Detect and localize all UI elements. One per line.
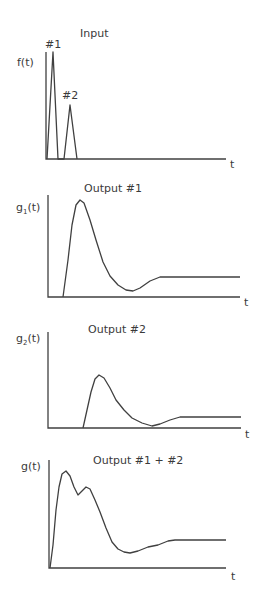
output2-curve bbox=[83, 375, 241, 428]
panel-output-1: Output #1 g1(t) t bbox=[16, 182, 249, 309]
y-axis-label: g(t) bbox=[21, 460, 41, 473]
panel-title: Output #1 bbox=[84, 182, 142, 195]
panel-title: Output #2 bbox=[88, 323, 146, 336]
axes bbox=[49, 460, 226, 568]
panel-title: Input bbox=[80, 27, 109, 40]
x-axis-label: t bbox=[230, 158, 235, 171]
axes bbox=[48, 332, 241, 428]
output1-curve bbox=[63, 200, 240, 297]
y-axis-label: f(t) bbox=[17, 56, 34, 69]
axes bbox=[48, 195, 240, 297]
figure-canvas: Input f(t) #1 #2 t Output #1 g1(t) t Out… bbox=[0, 0, 261, 602]
y-axis-label: g2(t) bbox=[16, 332, 40, 347]
y-axis-label: g1(t) bbox=[16, 201, 40, 216]
panel-title: Output #1 + #2 bbox=[93, 454, 183, 467]
input-curve bbox=[47, 52, 77, 159]
x-axis-label: t bbox=[231, 570, 236, 583]
panel-input: Input f(t) #1 #2 t bbox=[17, 27, 235, 171]
x-axis-label: t bbox=[244, 296, 249, 309]
pulse-label-2: #2 bbox=[62, 89, 78, 102]
axes bbox=[46, 52, 226, 159]
panel-output-combined: Output #1 + #2 g(t) t bbox=[21, 454, 236, 583]
combined-curve bbox=[50, 471, 226, 568]
pulse-label-1: #1 bbox=[45, 38, 61, 51]
x-axis-label: t bbox=[245, 428, 250, 441]
panel-output-2: Output #2 g2(t) t bbox=[16, 323, 250, 441]
